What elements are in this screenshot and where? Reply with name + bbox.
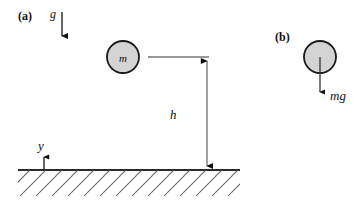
weight-force-label: mg xyxy=(330,89,346,102)
y-axis-label: y xyxy=(38,139,44,152)
mass-label: m xyxy=(119,52,127,64)
height-label: h xyxy=(170,108,177,121)
gravity-label: g xyxy=(50,8,56,20)
panel-b-tag: (b) xyxy=(275,31,290,43)
figure-canvas xyxy=(0,0,364,209)
ground-hatching xyxy=(4,170,254,196)
panel-a-tag: (a) xyxy=(18,10,32,22)
physics-figure: (a) g m h y (b) mg xyxy=(0,0,364,209)
